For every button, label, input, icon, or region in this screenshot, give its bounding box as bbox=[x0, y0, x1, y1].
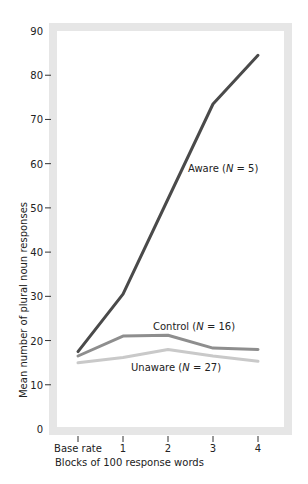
y-tick-label: 50 bbox=[30, 203, 43, 214]
label-unaware: Unaware (N = 27) bbox=[131, 362, 221, 373]
line-chart: 0102030405060708090 Base rate1234 Aware … bbox=[0, 0, 308, 484]
x-tick-label: 1 bbox=[120, 443, 126, 454]
y-tick-label: 0 bbox=[37, 424, 43, 435]
series-line bbox=[78, 349, 258, 362]
y-tick-label: 70 bbox=[30, 114, 43, 125]
x-tick-label: 3 bbox=[210, 443, 216, 454]
x-axis-title: Blocks of 100 response words bbox=[55, 457, 204, 468]
y-tick-label: 60 bbox=[30, 159, 43, 170]
series-lines bbox=[78, 55, 258, 362]
x-axis: Base rate1234 bbox=[54, 436, 261, 454]
label-aware: Aware (N = 5) bbox=[188, 163, 258, 174]
y-tick-label: 20 bbox=[30, 336, 43, 347]
y-tick-label: 40 bbox=[30, 247, 43, 258]
x-tick-label: 4 bbox=[255, 443, 261, 454]
y-tick-label: 80 bbox=[30, 70, 43, 81]
x-tick-label: 2 bbox=[165, 443, 171, 454]
series-line bbox=[78, 335, 258, 356]
y-tick-label: 30 bbox=[30, 291, 43, 302]
label-control: Control (N = 16) bbox=[153, 321, 235, 332]
plot-frame bbox=[49, 23, 292, 435]
y-axis: 0102030405060708090 bbox=[30, 26, 51, 435]
series-line bbox=[78, 55, 258, 351]
y-tick-label: 90 bbox=[30, 26, 43, 37]
x-tick-label: Base rate bbox=[54, 443, 102, 454]
y-tick-label: 10 bbox=[30, 380, 43, 391]
y-axis-title: Mean number of plural noun responses bbox=[18, 202, 29, 398]
